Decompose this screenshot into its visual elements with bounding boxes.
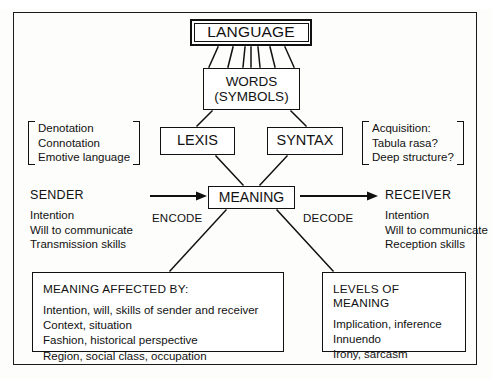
group-receiver: RECEIVER Intention Will to communicate R… (385, 188, 488, 252)
node-words-label-line1: WORDS (226, 75, 278, 89)
box-item: Context, situation (43, 318, 273, 333)
bracket-right (133, 121, 140, 165)
box-item: Innuendo (333, 332, 455, 347)
receiver-item: Reception skills (385, 237, 488, 252)
scan-bleed-strip (0, 0, 492, 9)
node-language: LANGUAGE (190, 19, 312, 46)
node-lexis: LEXIS (160, 127, 235, 155)
node-words: WORDS (SYMBOLS) (203, 68, 300, 110)
box-meaning-affected-by: MEANING AFFECTED BY: Intention, will, sk… (32, 272, 284, 352)
encode-label: ENCODE (152, 212, 202, 224)
receiver-title: RECEIVER (385, 188, 488, 202)
receiver-item: Will to communicate (385, 223, 488, 238)
decode-label: DECODE (303, 212, 353, 224)
node-meaning: MEANING (208, 186, 295, 209)
node-language-inner-border: LANGUAGE (194, 23, 309, 41)
annotation-lexis-notes: Denotation Connotation Emotive language (28, 121, 140, 165)
box-title: LEVELS OF MEANING (333, 282, 455, 310)
group-sender: SENDER Intention Will to communicate Tra… (30, 188, 133, 252)
annotation-line: Acquisition: (372, 121, 454, 136)
annotation-line: Emotive language (38, 150, 130, 165)
annotation-syntax-notes: Acquisition: Tabula rasa? Deep structure… (362, 121, 464, 165)
annotation-line: Deep structure? (372, 150, 454, 165)
box-title: MEANING AFFECTED BY: (43, 282, 273, 296)
node-syntax-label: SYNTAX (277, 133, 334, 148)
box-levels-of-meaning: LEVELS OF MEANING Implication, inference… (322, 272, 466, 352)
annotation-line: Tabula rasa? (372, 136, 454, 151)
box-item: Fashion, historical perspective (43, 333, 273, 348)
node-lexis-label: LEXIS (177, 133, 218, 148)
box-item: Intention, will, skills of sender and re… (43, 303, 273, 318)
bracket-left (362, 121, 369, 165)
annotation-syntax-lines: Acquisition: Tabula rasa? Deep structure… (369, 121, 457, 165)
node-words-label-line2: (SYMBOLS) (214, 90, 288, 104)
bracket-right (457, 121, 464, 165)
node-meaning-label: MEANING (219, 190, 284, 205)
box-item: Implication, inference (333, 317, 455, 332)
receiver-item: Intention (385, 208, 488, 223)
diagram-canvas: LANGUAGE WORDS (SYMBOLS) LEXIS SYNTAX ME… (0, 0, 492, 379)
sender-item: Transmission skills (30, 237, 133, 252)
sender-item: Intention (30, 208, 133, 223)
node-language-label: LANGUAGE (207, 24, 295, 40)
annotation-line: Connotation (38, 136, 130, 151)
bracket-left (28, 121, 35, 165)
annotation-line: Denotation (38, 121, 130, 136)
box-item: Region, social class, occupation (43, 349, 273, 364)
sender-title: SENDER (30, 188, 133, 202)
annotation-lexis-lines: Denotation Connotation Emotive language (35, 121, 133, 165)
sender-item: Will to communicate (30, 223, 133, 238)
node-syntax: SYNTAX (267, 127, 343, 155)
box-item: Irony, sarcasm (333, 347, 455, 362)
